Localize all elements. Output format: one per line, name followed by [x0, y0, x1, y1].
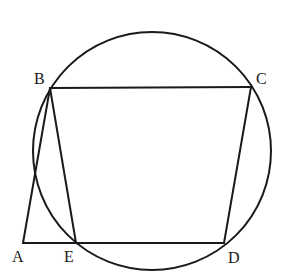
circumcircle: [33, 32, 271, 270]
point-label-d: D: [228, 249, 240, 266]
geometry-diagram: B C A E D: [0, 0, 284, 278]
segment-cd: [224, 87, 251, 243]
segment-bc: [50, 87, 251, 88]
point-label-a: A: [12, 248, 24, 265]
point-label-c: C: [256, 70, 267, 87]
segment-ab: [23, 88, 50, 243]
point-label-b: B: [34, 70, 45, 87]
point-label-e: E: [64, 248, 74, 265]
